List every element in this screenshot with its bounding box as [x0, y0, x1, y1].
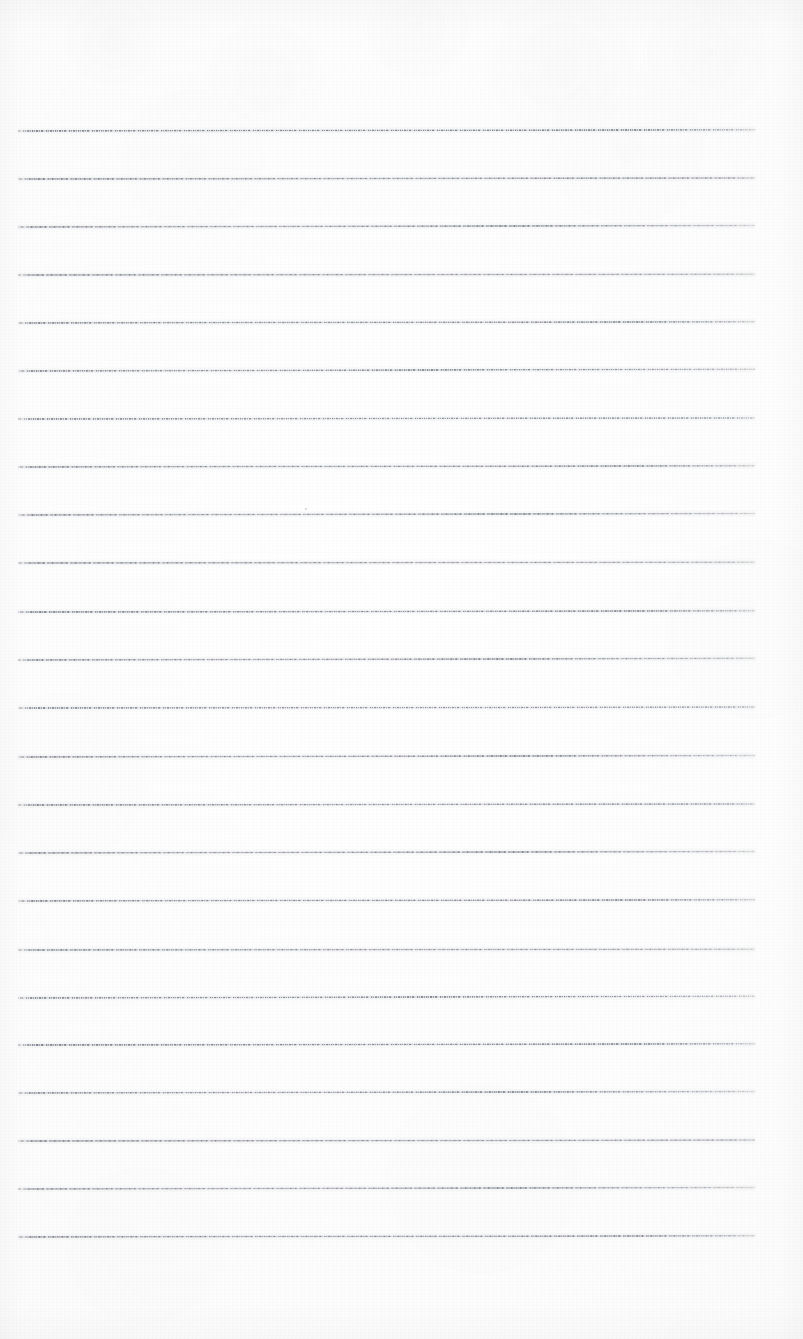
- ruled-line-bleed: [18, 128, 755, 133]
- ruled-line-bleed: [18, 1090, 755, 1095]
- ruled-line-bleed: [18, 367, 755, 373]
- ruled-line-ink: [18, 948, 755, 951]
- ruled-line-ink: [18, 657, 755, 661]
- ruled-line-bleed: [18, 656, 755, 662]
- ruled-line-bleed: [18, 849, 755, 855]
- ruled-line: [18, 1235, 755, 1238]
- ruled-line: [18, 224, 755, 228]
- ruled-line: [18, 899, 755, 902]
- ruled-line: [18, 129, 755, 132]
- ruled-line: [18, 561, 755, 564]
- ruled-line-bleed: [18, 320, 755, 325]
- ruled-line-bleed: [18, 560, 755, 565]
- ruled-line-ink: [18, 417, 755, 420]
- ruled-line: [18, 1186, 755, 1190]
- ruled-line-ink: [18, 850, 755, 854]
- ruled-line-bleed: [18, 223, 755, 229]
- ruled-line: [18, 610, 755, 613]
- ruled-line-bleed: [18, 272, 755, 277]
- ruled-line-bleed: [18, 754, 755, 759]
- ruled-line-bleed: [18, 416, 755, 421]
- ruled-line-bleed: [18, 511, 755, 517]
- ruled-line-ink: [18, 465, 755, 468]
- ruled-line: [18, 512, 755, 516]
- ruled-line: [18, 1043, 755, 1046]
- scanned-page: [0, 0, 803, 1339]
- ruled-line: [18, 706, 755, 709]
- ruled-line-bleed: [18, 609, 755, 614]
- ruled-line-ink: [18, 368, 755, 372]
- ruled-line-ink: [18, 1186, 755, 1190]
- ruled-line-ink: [18, 755, 755, 758]
- ruled-line-bleed: [18, 802, 755, 807]
- ruled-line-ink: [18, 129, 755, 132]
- ruled-line-bleed: [18, 898, 755, 903]
- ruled-line-bleed: [18, 176, 755, 181]
- ruled-line-ink: [18, 995, 755, 999]
- ruled-line: [18, 1139, 755, 1142]
- ruled-line: [18, 273, 755, 276]
- ruled-line: [18, 177, 755, 180]
- ruled-line-bleed: [18, 705, 755, 710]
- ruled-line: [18, 995, 755, 999]
- ruled-line-ink: [18, 803, 755, 806]
- ruled-line-bleed: [18, 1185, 755, 1191]
- ruled-line-ink: [18, 1043, 755, 1046]
- ruled-line-ink: [18, 224, 755, 228]
- ruled-line: [18, 321, 755, 324]
- ruled-line: [18, 417, 755, 420]
- ruled-line-bleed: [18, 1234, 755, 1239]
- ruled-line: [18, 948, 755, 951]
- ruled-line-ink: [18, 1091, 755, 1094]
- ruled-line-ink: [18, 177, 755, 180]
- ruled-line-ink: [18, 610, 755, 613]
- ruled-line-bleed: [18, 994, 755, 1000]
- page-speck: [305, 508, 307, 510]
- ruled-line-bleed: [18, 1138, 755, 1143]
- ruled-line: [18, 1091, 755, 1094]
- ruled-line-ink: [18, 1235, 755, 1238]
- ruled-line: [18, 803, 755, 806]
- ruled-line-ink: [18, 899, 755, 902]
- ruled-line-bleed: [18, 947, 755, 952]
- ruled-line: [18, 657, 755, 661]
- ruled-line-ink: [18, 561, 755, 564]
- ruled-line-ink: [18, 512, 755, 516]
- ruled-line-ink: [18, 321, 755, 324]
- ruled-line: [18, 368, 755, 372]
- ruled-line: [18, 465, 755, 468]
- ruled-line-bleed: [18, 1042, 755, 1047]
- ruled-line-bleed: [18, 464, 755, 469]
- ruled-line: [18, 850, 755, 854]
- ruled-line-ink: [18, 273, 755, 276]
- ruled-line-ink: [18, 1139, 755, 1142]
- ruled-line: [18, 755, 755, 758]
- ruled-lines-group: [0, 0, 803, 1339]
- ruled-line-ink: [18, 706, 755, 709]
